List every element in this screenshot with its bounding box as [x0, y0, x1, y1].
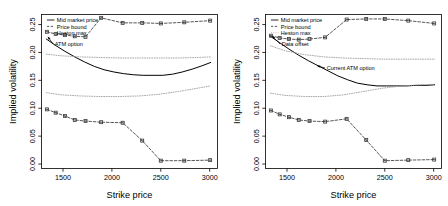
y-tick-label: 0.05	[29, 129, 38, 143]
legend-label: Mid market price	[281, 17, 322, 23]
x-tick-label: 3000	[202, 173, 218, 182]
chart-panel-right: 1500200025003000Strike price0.000.050.10…	[224, 0, 448, 206]
x-tick-label: 2000	[104, 173, 120, 182]
y-axis-title: Implied volatility	[8, 59, 18, 124]
y-tick-label: 0.10	[29, 101, 38, 115]
x-axis: 1500200025003000Strike price	[279, 169, 442, 200]
series-line	[271, 110, 434, 160]
x-tick-label: 1500	[279, 173, 295, 182]
legend: Mid market pricePrice boundHeston max	[271, 17, 322, 36]
y-axis: 0.000.050.100.150.200.25Implied volatili…	[232, 18, 266, 171]
legend-label: Mid market price	[57, 17, 98, 23]
y-tick-label: 0.25	[253, 18, 262, 32]
implied-volatility-plot-right: 1500200025003000Strike price0.000.050.10…	[224, 0, 448, 206]
x-tick-label: 2500	[377, 173, 393, 182]
series-group	[269, 17, 435, 162]
y-axis: 0.000.050.100.150.200.25Implied volatili…	[8, 18, 42, 171]
y-tick-label: 0.15	[29, 73, 38, 87]
x-tick-label: 2000	[328, 173, 344, 182]
legend-label: Price bound	[281, 24, 311, 30]
two-panel-figure: 1500200025003000Strike price0.000.050.10…	[0, 0, 448, 206]
x-axis-title: Strike price	[107, 190, 153, 200]
annotations: ATM option	[48, 37, 83, 47]
y-tick-label: 0.10	[253, 101, 262, 115]
implied-volatility-plot-left: 1500200025003000Strike price0.000.050.10…	[0, 0, 224, 206]
annotations: Data offsetCurrent ATM option	[272, 36, 374, 71]
x-axis: 1500200025003000Strike price	[55, 169, 218, 200]
chart-canvas-right: 1500200025003000Strike price0.000.050.10…	[224, 0, 448, 206]
y-tick-label: 0.20	[253, 45, 262, 59]
x-tick-label: 1500	[55, 173, 71, 182]
annotation-label: ATM option	[55, 41, 83, 47]
legend: Mid market pricePrice boundHeston max	[47, 17, 98, 36]
series-line	[46, 86, 210, 97]
y-tick-label: 0.20	[29, 45, 38, 59]
annotation-label: Data offset	[282, 41, 309, 47]
annotation-label: Current ATM option	[327, 65, 375, 71]
chart-panel-left: 1500200025003000Strike price0.000.050.10…	[0, 0, 224, 206]
legend-label: Heston max	[57, 30, 87, 36]
x-tick-label: 2500	[153, 173, 169, 182]
y-tick-label: 0.05	[253, 129, 262, 143]
legend-label: Price bound	[57, 24, 87, 30]
plot-frame	[42, 15, 218, 169]
legend-label: Heston max	[281, 30, 311, 36]
y-tick-label: 0.15	[253, 73, 262, 87]
y-tick-label: 0.25	[29, 18, 38, 32]
series-group	[45, 16, 211, 162]
chart-canvas-left: 1500200025003000Strike price0.000.050.10…	[0, 0, 224, 206]
series-line	[47, 109, 210, 160]
y-tick-label: 0.00	[253, 157, 262, 171]
x-axis-title: Strike price	[331, 190, 377, 200]
y-tick-label: 0.00	[29, 157, 38, 171]
y-axis-title: Implied volatility	[232, 59, 242, 124]
plot-frame	[266, 15, 442, 169]
x-tick-label: 3000	[426, 173, 442, 182]
